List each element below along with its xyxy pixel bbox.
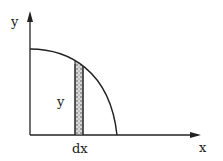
y-axis-label: y [10,14,19,29]
quarter-curve [30,49,117,135]
strip-width-label: dx [72,141,88,156]
x-axis-arrow-icon [190,132,201,138]
integration-strip [75,40,83,135]
x-axis-label: x [199,140,207,155]
strip-height-label: y [56,94,65,109]
area-under-curve-diagram: y x y dx [0,0,223,161]
y-axis-arrow-icon [27,11,33,22]
